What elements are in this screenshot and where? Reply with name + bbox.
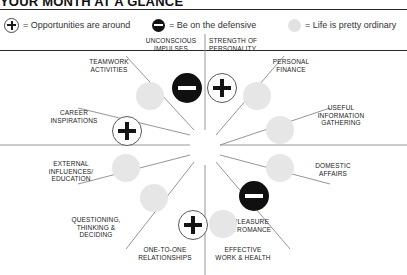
sector-marker-pleasure-and-romance [239,181,269,211]
sector-marker-unconscious-impulses [172,73,202,103]
ordinary-icon [288,19,301,32]
sector-label-personal-finance: Personal Finance [262,58,320,73]
legend-item-label: = Life is pretty ordinary [305,16,396,34]
sector-label-unconscious-impulses: Unconscious Impulses [140,37,202,52]
sector-marker-career-inspirations [112,116,142,146]
sector-label-domestic-affairs: Domestic Affairs [302,162,364,177]
sector-marker-questioning-thinking-deciding [140,184,168,212]
title-bar: Your Month at a Glance [0,0,407,12]
sector-label-external-influences-education: External Influences/ Education [36,160,106,183]
sector-label-questioning-thinking-deciding: Questioning, Thinking & Deciding [60,216,132,239]
sector-marker-teamwork-activities [136,82,164,110]
sector-marker-personal-finance [243,82,271,110]
sector-marker-useful-information-gathering [266,116,294,144]
sector-label-effective-work-and-health: Effective Work & Health [208,246,278,261]
sector-label-career-inspirations: Career Inspirations [40,109,108,124]
sector-label-useful-information-gathering: Useful Information Gathering [306,104,376,127]
sector-marker-strength-of-personality [207,73,237,103]
wheel-spokes [0,34,407,275]
sector-label-one-to-one-relationships: One-to-One Relationships [130,246,200,261]
sector-label-strength-of-personality: Strength of Personality [209,37,273,52]
sector-marker-one-to-one-relationships [178,210,208,240]
astrology-wheel: Unconscious Impulses Strength of Persona… [0,34,407,275]
minus-icon [152,19,165,32]
page-title: Your Month at a Glance [0,0,183,9]
legend-item-ordinary: = Life is pretty ordinary [288,16,396,34]
plus-icon [4,18,19,33]
legend-item-label: = Be on the defensive [169,16,256,34]
sector-marker-effective-work-and-health [209,210,237,238]
legend: = Opportunities are around = Be on the d… [0,16,407,34]
sector-marker-domestic-affairs [266,154,294,182]
legend-item-defensive: = Be on the defensive [152,16,256,34]
sector-marker-external-influences-education [112,154,140,182]
legend-item-label: = Opportunities are around [23,16,130,34]
sector-label-teamwork-activities: Teamwork Activities [78,58,140,73]
month-at-a-glance-page: Your Month at a Glance = Opportunities a… [0,0,407,275]
title-divider [0,9,407,10]
legend-item-opportunities: = Opportunities are around [4,16,130,34]
